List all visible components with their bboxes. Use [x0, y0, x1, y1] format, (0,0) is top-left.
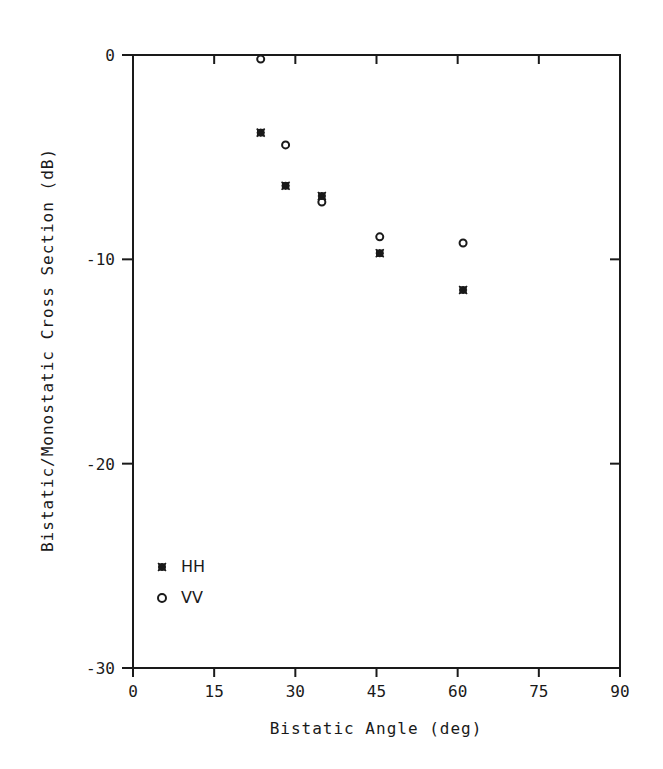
x-tick-label: 75	[529, 682, 548, 701]
asterisk-marker-shape	[158, 563, 166, 571]
legend-label-hh: HH	[181, 557, 205, 576]
hh-data-point	[376, 249, 384, 257]
x-tick-label: 15	[205, 682, 224, 701]
hh-data-point	[282, 182, 290, 190]
x-tick-label: 60	[448, 682, 467, 701]
vv-data-point	[257, 56, 264, 63]
y-tick-label: 0	[105, 46, 115, 65]
open-circle-marker-icon	[158, 594, 166, 602]
vv-data-point	[460, 239, 467, 246]
y-tick-label: -20	[86, 455, 115, 474]
data-points	[257, 56, 467, 294]
vv-data-point	[376, 233, 383, 240]
y-tick-label: -10	[86, 250, 115, 269]
x-axis-ticks: 0153045607590	[128, 55, 629, 701]
x-axis-title: Bistatic Angle (deg)	[270, 719, 483, 738]
legend-item-vv: VV	[158, 588, 203, 607]
y-axis-ticks: 0-10-20-30	[86, 46, 620, 678]
legend-label-vv: VV	[181, 588, 203, 607]
legend: HH VV	[158, 557, 205, 607]
y-tick-label: -30	[86, 659, 115, 678]
vv-data-point	[282, 141, 289, 148]
y-axis-title: Bistatic/Monostatic Cross Section (dB)	[38, 148, 57, 552]
legend-item-hh: HH	[158, 557, 205, 576]
hh-data-point	[257, 129, 265, 137]
hh-data-point	[459, 286, 467, 294]
scatter-chart: 0153045607590 0-10-20-30 Bistatic Angle …	[0, 0, 663, 769]
x-tick-label: 90	[610, 682, 629, 701]
x-tick-label: 0	[128, 682, 138, 701]
x-tick-label: 45	[367, 682, 386, 701]
plot-frame	[133, 55, 620, 668]
x-tick-label: 30	[286, 682, 305, 701]
asterisk-marker-icon	[158, 563, 166, 571]
